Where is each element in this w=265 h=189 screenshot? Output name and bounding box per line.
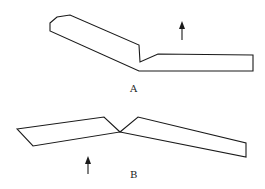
diagram-canvas: A B [0,0,265,189]
figure-a: A [50,15,253,94]
figure-b-arrow-icon [85,156,91,174]
figure-b-label: B [130,169,137,180]
figure-b-right-piece [120,117,246,157]
figure-a-arrow-icon [179,21,185,40]
figure-a-shape [50,15,253,71]
figure-b-left-piece [17,117,120,146]
figure-b: B [17,117,246,180]
figure-a-label: A [129,83,138,94]
